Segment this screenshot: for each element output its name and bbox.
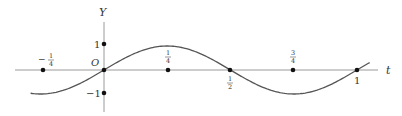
- svg-text:1: 1: [228, 75, 232, 83]
- point-t-quarter: [166, 68, 171, 73]
- sine-graph: Y t O 1 −1 − 1 4 1 4 1 2 3 4 1: [0, 0, 402, 116]
- point-t-neg-quarter: [41, 68, 46, 73]
- svg-text:1: 1: [166, 49, 170, 57]
- label-one: 1: [354, 75, 360, 86]
- label-neg-quarter: − 1 4: [38, 52, 54, 68]
- point-y-neg1: [102, 91, 107, 96]
- svg-text:−: −: [38, 54, 46, 64]
- y-axis-label: Y: [99, 6, 108, 19]
- point-t-one: [355, 68, 360, 73]
- svg-text:2: 2: [228, 83, 232, 91]
- y-tick-neg1: −1: [86, 88, 101, 99]
- point-t-three-quarters: [291, 68, 296, 73]
- origin-label: O: [91, 57, 99, 68]
- point-y-1: [102, 42, 107, 47]
- point-origin: [102, 68, 107, 73]
- svg-text:1: 1: [49, 52, 53, 60]
- label-three-quarters: 3 4: [290, 49, 296, 65]
- svg-text:4: 4: [166, 57, 170, 65]
- label-half: 1 2: [227, 75, 233, 91]
- svg-text:4: 4: [49, 60, 53, 68]
- t-axis-label: t: [386, 64, 391, 77]
- svg-text:3: 3: [291, 49, 295, 57]
- svg-text:4: 4: [291, 57, 295, 65]
- y-tick-1: 1: [94, 39, 100, 50]
- point-t-half: [228, 68, 233, 73]
- label-quarter: 1 4: [165, 49, 171, 65]
